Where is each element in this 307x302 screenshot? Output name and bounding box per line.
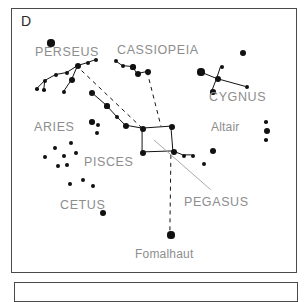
star-perseus-d — [35, 87, 39, 91]
star-aries-3 — [95, 131, 99, 135]
star-pegasus-east-3 — [202, 162, 206, 166]
label-altair: Altair — [211, 121, 240, 133]
star-cetus-3 — [91, 184, 95, 188]
star-pisces-6 — [65, 163, 69, 167]
label-pisces: PISCES — [84, 156, 133, 169]
line-square-top — [142, 126, 171, 128]
star-cygnus-top — [220, 65, 224, 69]
line-square-bottom — [142, 151, 173, 152]
label-fomalhaut: Fomalhaut — [135, 248, 194, 260]
star-pisces-4 — [62, 154, 66, 158]
label-cygnus: CYGNUS — [209, 91, 266, 104]
star-cassiopeia-5 — [145, 69, 151, 75]
star-andromeda-4 — [123, 123, 129, 129]
label-cassiopeia: CASSIOPEIA — [117, 44, 199, 57]
star-pisces-5 — [43, 155, 47, 159]
dashed-cassiopeia-to-square — [147, 72, 161, 127]
star-perseus-f — [62, 90, 66, 94]
label-pegasus: PEGASUS — [184, 196, 249, 209]
label-perseus: PERSEUS — [35, 46, 99, 59]
next-panel-edge — [14, 282, 298, 302]
star-cassiopeia-3 — [130, 64, 135, 69]
star-perseus-g — [86, 61, 90, 65]
star-pegasus-east-2 — [191, 154, 195, 158]
star-pisces-3 — [74, 151, 78, 155]
star-cetus-2 — [81, 178, 85, 182]
star-perseus-e — [42, 88, 46, 92]
star-altair-upper — [264, 120, 268, 124]
chart-panel-d: D PERSEUSCASSIOPEIACYGNUSARIESAltairPISC… — [11, 8, 297, 273]
star-aries-1 — [89, 119, 95, 125]
star-fomalhaut — [167, 231, 174, 238]
star-perseus-c — [43, 79, 47, 83]
dashed-square-to-fomalhaut — [170, 155, 171, 231]
star-pisces-7 — [56, 164, 60, 168]
star-pisces-1 — [69, 141, 73, 145]
label-aries: ARIES — [34, 121, 75, 134]
star-cygnus-deneb — [197, 68, 204, 75]
star-cetus-1 — [68, 182, 72, 186]
star-altair-lower — [264, 138, 268, 142]
star-pisces-2 — [53, 146, 57, 150]
label-cetus: CETUS — [60, 199, 105, 212]
star-andromeda-2 — [104, 103, 109, 108]
